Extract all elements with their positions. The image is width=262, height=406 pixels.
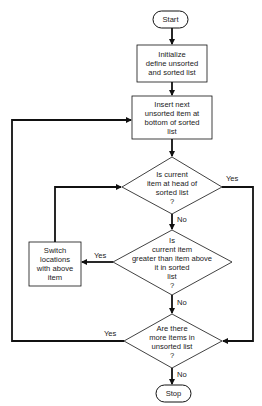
edge-label-head-no: No bbox=[177, 215, 187, 224]
edge-label-greater-yes: Yes bbox=[94, 251, 106, 260]
edge-label-more-yes: Yes bbox=[104, 329, 116, 338]
edge-label-greater-no: No bbox=[177, 298, 187, 307]
edge-label-more-no: No bbox=[177, 370, 187, 379]
decision-greater-label: Is current item greater than item above … bbox=[117, 236, 227, 290]
decision-more-label: Are there more items in unsorted list ? bbox=[132, 324, 212, 360]
init-label: Initialize define unsorted and sorted li… bbox=[137, 50, 207, 77]
stop-label: Stop bbox=[156, 389, 191, 398]
switch-label: Switch locations with above item bbox=[29, 246, 81, 282]
start-label: Start bbox=[153, 15, 188, 24]
decision-head-label: Is current item at head of sorted list ? bbox=[132, 170, 212, 206]
edge-label-head-yes: Yes bbox=[226, 174, 238, 183]
edge-switch-head bbox=[55, 187, 121, 242]
insert-label: Insert next unsorted item at bottom of s… bbox=[132, 100, 212, 136]
edge-more-yes-insert bbox=[12, 120, 131, 341]
flowchart-canvas bbox=[0, 0, 262, 406]
